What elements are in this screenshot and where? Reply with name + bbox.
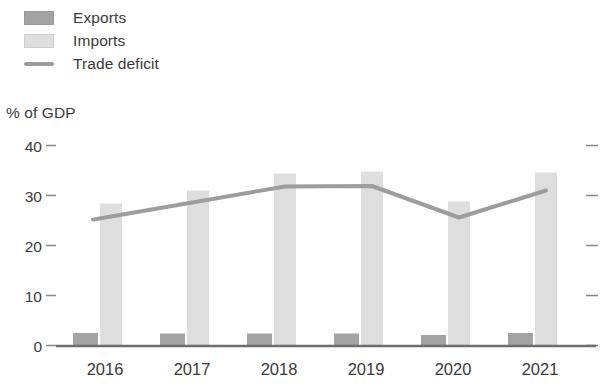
bar-imports	[187, 191, 209, 346]
bar-exports	[247, 334, 272, 346]
x-axis-tick-labels: 201620172018201920202021	[87, 360, 559, 378]
y-tick-label: 20	[25, 238, 43, 255]
y-axis-ticks-right	[586, 146, 598, 346]
bar-exports	[73, 333, 98, 346]
bar-imports	[448, 202, 470, 346]
bar-exports	[421, 335, 446, 346]
chart-plot-area: 010203040 201620172018201920202021	[0, 0, 608, 391]
y-tick-label: 10	[25, 288, 43, 305]
bar-group-imports	[100, 172, 557, 346]
y-tick-label: 40	[25, 138, 43, 155]
bar-exports	[334, 334, 359, 346]
x-tick-label: 2018	[261, 360, 298, 378]
x-tick-label: 2017	[174, 360, 211, 378]
bar-imports	[361, 172, 383, 346]
bar-imports	[100, 204, 122, 346]
bar-imports	[535, 173, 557, 346]
bar-exports	[160, 334, 185, 346]
y-axis-ticks: 010203040	[25, 138, 56, 355]
x-tick-label: 2016	[87, 360, 124, 378]
bar-imports	[274, 174, 296, 346]
y-tick-label: 0	[33, 338, 42, 355]
bar-exports	[508, 333, 533, 346]
x-tick-label: 2020	[435, 360, 472, 378]
x-tick-label: 2021	[522, 360, 559, 378]
x-tick-label: 2019	[348, 360, 385, 378]
y-tick-label: 30	[25, 188, 43, 205]
trade-deficit-line	[93, 186, 546, 220]
